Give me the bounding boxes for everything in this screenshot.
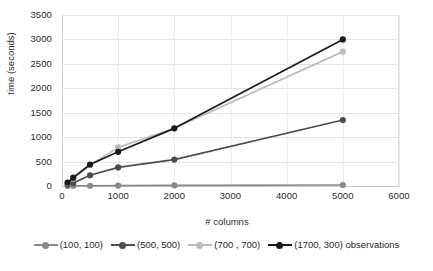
gridline-vertical bbox=[287, 15, 288, 186]
gridline-vertical bbox=[343, 15, 344, 186]
chart-legend: (100, 100)(500, 500)(700 , 700)(1700, 30… bbox=[0, 239, 433, 250]
x-tick-label: 6000 bbox=[369, 190, 429, 201]
legend-swatch-icon bbox=[188, 240, 212, 249]
x-tick-label: 5000 bbox=[313, 190, 373, 201]
x-tick-label: 0 bbox=[32, 190, 92, 201]
y-tick-label: 500 bbox=[0, 157, 52, 167]
plot-area bbox=[62, 15, 399, 186]
legend-marker-icon bbox=[119, 242, 126, 249]
gridline-vertical bbox=[231, 15, 232, 186]
chart-root: 0500100015002000250030003500 01000200030… bbox=[0, 0, 433, 271]
legend-item[interactable]: (500, 500) bbox=[111, 239, 180, 250]
legend-label: (500, 500) bbox=[137, 239, 180, 250]
gridline-vertical bbox=[174, 15, 175, 186]
legend-label: (700 , 700) bbox=[214, 239, 260, 250]
x-tick-label: 2000 bbox=[144, 190, 204, 201]
legend-swatch-icon bbox=[111, 240, 135, 249]
gridline-vertical bbox=[399, 15, 400, 186]
legend-swatch-icon bbox=[34, 240, 58, 249]
legend-item[interactable]: (1700, 300) observations bbox=[268, 239, 399, 250]
legend-item[interactable]: (700 , 700) bbox=[188, 239, 260, 250]
legend-swatch-icon bbox=[268, 240, 292, 249]
legend-marker-icon bbox=[196, 242, 203, 249]
legend-label: (100, 100) bbox=[60, 239, 103, 250]
legend-label: (1700, 300) observations bbox=[294, 239, 399, 250]
gridline-vertical bbox=[118, 15, 119, 186]
x-tick-label: 1000 bbox=[88, 190, 148, 201]
x-tick-label: 4000 bbox=[257, 190, 317, 201]
x-axis-label: # columns bbox=[172, 216, 282, 227]
x-tick-label: 3000 bbox=[201, 190, 261, 201]
x-axis-line bbox=[62, 186, 399, 187]
legend-marker-icon bbox=[276, 242, 283, 249]
y-axis-label: time (seconds) bbox=[5, 4, 16, 124]
legend-item[interactable]: (100, 100) bbox=[34, 239, 103, 250]
y-tick-label: 1000 bbox=[0, 132, 52, 142]
legend-marker-icon bbox=[42, 242, 49, 249]
